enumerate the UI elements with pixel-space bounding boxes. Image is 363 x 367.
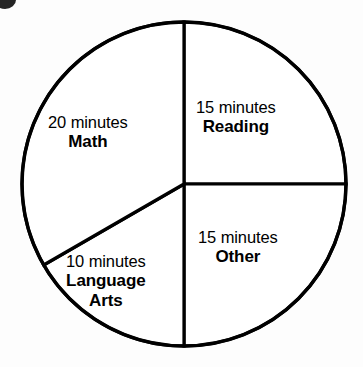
pie-label-language-arts-name-line2: Arts <box>66 291 146 311</box>
pie-label-other: 15 minutes Other <box>198 228 278 267</box>
pie-label-math-name: Math <box>48 132 128 152</box>
pie-label-other-amount: 15 minutes <box>198 228 278 247</box>
pie-label-reading-name: Reading <box>196 117 276 137</box>
pie-label-math-amount: 20 minutes <box>48 113 128 132</box>
pie-chart-graphic <box>0 0 363 367</box>
pie-label-reading: 15 minutes Reading <box>196 98 276 137</box>
pie-label-math: 20 minutes Math <box>48 113 128 152</box>
pie-label-other-name: Other <box>198 247 278 267</box>
pie-label-language-arts-name: Language <box>66 271 146 291</box>
pie-label-language-arts-amount: 10 minutes <box>66 252 146 271</box>
pie-label-language-arts: 10 minutes Language Arts <box>66 252 146 311</box>
pie-label-reading-amount: 15 minutes <box>196 98 276 117</box>
pie-chart-figure: 15 minutes Reading 20 minutes Math 15 mi… <box>0 0 363 367</box>
